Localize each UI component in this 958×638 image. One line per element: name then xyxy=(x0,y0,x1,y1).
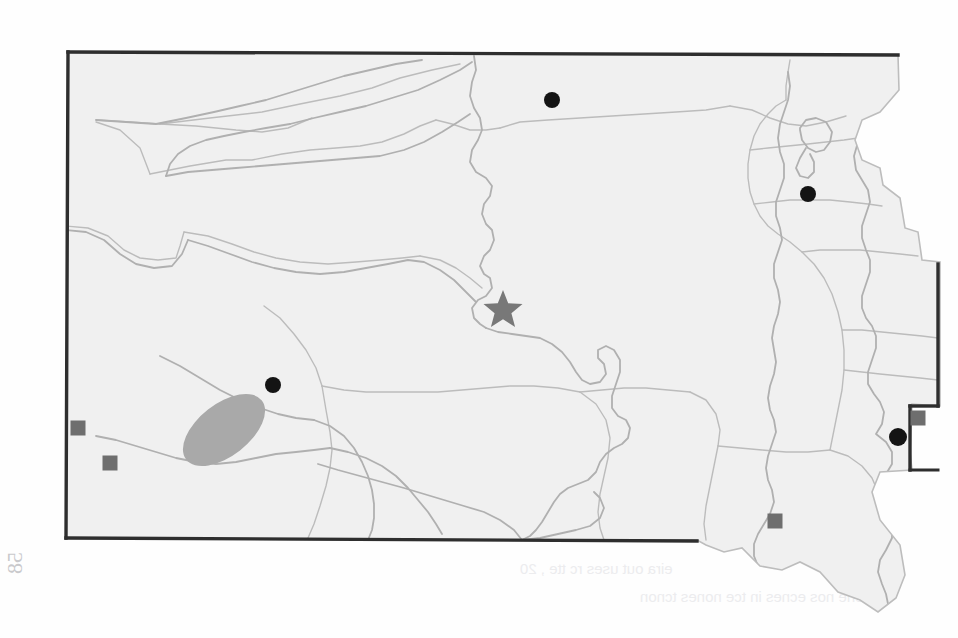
square-east-border xyxy=(911,411,926,426)
circle-northeast xyxy=(800,186,816,202)
south-dakota-distribution-map xyxy=(0,0,958,638)
circle-east-border xyxy=(889,428,907,446)
square-southwest-lower xyxy=(103,456,118,471)
square-southwest-upper xyxy=(71,421,86,436)
circle-black-hills xyxy=(265,377,281,393)
border-west xyxy=(66,52,68,538)
square-southeast xyxy=(768,514,783,529)
circle-north-central xyxy=(544,92,560,108)
scanned-page: gr Serix and his wuck', and han halves D… xyxy=(0,0,958,638)
page-number-mark: 58 xyxy=(2,552,28,574)
